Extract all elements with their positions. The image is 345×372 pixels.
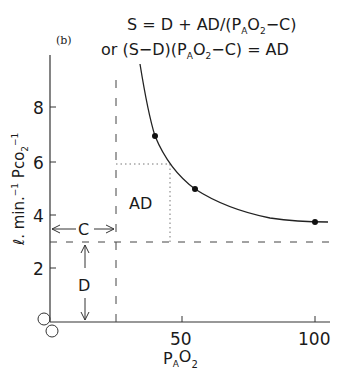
origin-y-zero-icon — [38, 313, 50, 325]
x-tick-100: 100 — [298, 329, 330, 349]
equation-line-1: S = D + AD/(PAO2−C) — [127, 15, 297, 36]
y-ticks: 2 4 6 8 — [33, 98, 56, 279]
d-label: D — [78, 276, 90, 295]
ad-label: AD — [129, 194, 152, 213]
x-ticks: 50 100 — [170, 316, 330, 349]
y-tick-2: 2 — [33, 259, 44, 279]
data-point — [312, 219, 318, 225]
y-tick-8: 8 — [33, 98, 44, 118]
y-tick-6: 6 — [33, 153, 44, 173]
x-axis-label: PAO2 — [163, 347, 198, 370]
c-dimension-arrow: C — [52, 220, 114, 239]
hyperbola-chart: (b) S = D + AD/(PAO2−C) or (S−D)(PAO2−C)… — [0, 0, 345, 372]
origin-x-zero-icon — [46, 325, 58, 337]
y-axis-label: ℓ. min.−1 Pco2−1 — [10, 133, 30, 246]
equation-line-2: or (S−D)(PAO2−C) = AD — [101, 40, 289, 61]
y-tick-4: 4 — [33, 206, 44, 226]
d-dimension-arrow: D — [78, 245, 90, 320]
data-point — [192, 186, 198, 192]
hyperbola-curve — [140, 64, 328, 222]
data-point — [152, 133, 158, 139]
panel-label: (b) — [56, 34, 72, 47]
c-label: C — [78, 220, 89, 239]
x-tick-50: 50 — [170, 329, 192, 349]
